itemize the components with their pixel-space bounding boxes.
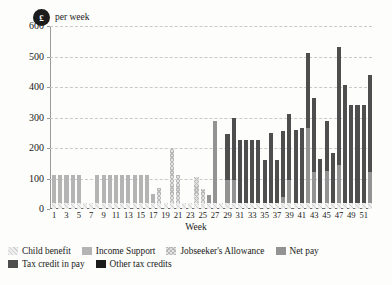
bar[interactable] (287, 114, 291, 209)
bar-segment (238, 140, 242, 203)
bar[interactable] (325, 121, 329, 209)
bar[interactable] (95, 175, 99, 209)
bar-segment (337, 165, 341, 203)
bar-segment (225, 203, 229, 209)
bar-segment (213, 121, 217, 203)
bar[interactable] (238, 140, 242, 209)
bar[interactable] (58, 175, 62, 209)
bar[interactable] (133, 175, 137, 209)
bar-segment (232, 203, 236, 209)
bar[interactable] (331, 153, 335, 209)
legend-item[interactable]: Income Support (82, 246, 156, 256)
x-tick-label: 41 (297, 210, 306, 220)
bar-segment (349, 203, 353, 209)
bar[interactable] (64, 175, 68, 209)
bar[interactable] (256, 140, 260, 209)
bar[interactable] (126, 175, 130, 209)
bar[interactable] (225, 134, 229, 209)
bar-segment (281, 131, 285, 197)
bar-segment (95, 203, 99, 209)
bar[interactable] (89, 203, 93, 209)
x-tick-label: 25 (198, 210, 207, 220)
bar[interactable] (362, 105, 366, 209)
x-tick-label: 5 (77, 210, 81, 220)
legend-swatch-icon (8, 260, 18, 268)
bar-segment (343, 85, 347, 202)
bar[interactable] (300, 128, 304, 209)
legend-label: Child benefit (22, 246, 71, 256)
bar-segment (368, 203, 372, 209)
bar[interactable] (145, 175, 149, 209)
bar[interactable] (71, 175, 75, 209)
bar[interactable] (188, 203, 192, 209)
bar[interactable] (263, 160, 267, 209)
bar-segment (157, 188, 161, 203)
bar[interactable] (294, 130, 298, 209)
bar-segment (120, 175, 124, 202)
bar[interactable] (194, 177, 198, 209)
bar-segment (275, 203, 279, 209)
bar-segment (300, 128, 304, 203)
bar-segment (201, 189, 205, 203)
bar[interactable] (275, 160, 279, 209)
bar[interactable] (182, 203, 186, 209)
bar[interactable] (232, 118, 236, 209)
bar[interactable] (120, 175, 124, 209)
bar[interactable] (337, 47, 341, 209)
legend-item[interactable]: Other tax credits (96, 259, 172, 269)
bar[interactable] (368, 75, 372, 209)
bar[interactable] (281, 131, 285, 209)
bar[interactable] (318, 159, 322, 209)
bar[interactable] (139, 175, 143, 209)
bar[interactable] (207, 195, 211, 209)
legend-item[interactable]: Jobseeker's Allowance (166, 246, 264, 256)
bar-segment (114, 175, 118, 202)
legend-item[interactable]: Child benefit (8, 246, 71, 256)
bar[interactable] (176, 175, 180, 209)
bar[interactable] (77, 175, 81, 209)
bar[interactable] (102, 175, 106, 209)
x-tick-label: 1 (52, 210, 56, 220)
x-tick-label: 9 (101, 210, 105, 220)
bar[interactable] (52, 175, 56, 209)
bar[interactable] (306, 53, 310, 209)
x-tick-label: 51 (359, 210, 368, 220)
plot-area (50, 26, 372, 209)
bar-segment (325, 203, 329, 209)
bar[interactable] (269, 133, 273, 209)
bar-segment (343, 203, 347, 209)
bar[interactable] (201, 189, 205, 209)
bar[interactable] (170, 148, 174, 209)
bar[interactable] (213, 121, 217, 209)
legend-item[interactable]: Net pay (276, 246, 319, 256)
x-tick-label: 17 (149, 210, 158, 220)
y-tick-label: 600 (8, 20, 44, 31)
bar[interactable] (355, 105, 359, 209)
bar[interactable] (164, 203, 168, 209)
bar-segment (126, 175, 130, 202)
bar-segment (225, 134, 229, 180)
bar[interactable] (244, 140, 248, 209)
bar[interactable] (108, 175, 112, 209)
y-tick-label: 0 (8, 203, 44, 214)
bar-segment (337, 203, 341, 209)
bar[interactable] (157, 188, 161, 209)
bar[interactable] (312, 98, 316, 209)
legend-item[interactable]: Tax credit in pay (8, 259, 85, 269)
bar[interactable] (151, 194, 155, 209)
bar-segment (64, 203, 68, 209)
bar[interactable] (83, 203, 87, 209)
bar[interactable] (250, 140, 254, 209)
bar-segment (294, 130, 298, 203)
bar[interactable] (349, 105, 353, 209)
bar[interactable] (219, 203, 223, 209)
legend-row-2: Tax credit in payOther tax credits (8, 257, 390, 270)
bar-segment (294, 203, 298, 209)
bar-segment (300, 203, 304, 209)
bar[interactable] (343, 85, 347, 209)
bar[interactable] (114, 175, 118, 209)
bar-segment (108, 203, 112, 209)
bar-segment (133, 175, 137, 202)
bar-segment (275, 160, 279, 203)
bar-segment (201, 203, 205, 209)
